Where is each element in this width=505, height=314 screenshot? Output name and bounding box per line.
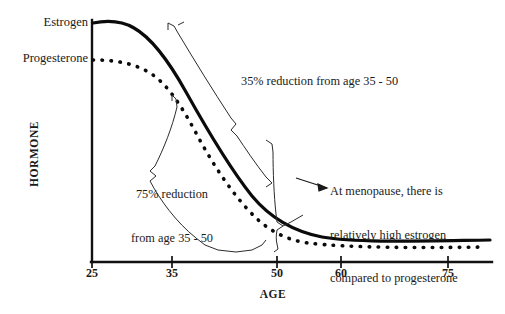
menopause-arrow [296,178,327,191]
annotation-progesterone-reduction-line-1: 75% reduction [102,187,242,202]
annotation-progesterone-reduction-line-2: from age 35 - 50 [102,231,242,246]
annotation-menopause-line-2: relatively high estrogen [330,228,505,243]
y-axis-title: HORMONE [28,99,40,209]
series-label-progesterone: Progesterone [0,51,88,66]
brace-menopause [266,140,303,252]
x-axis-title: AGE [243,288,303,300]
annotation-estrogen-reduction-line-1: 35% reduction from age 35 - 50 [241,74,471,89]
annotation-menopause: At menopause, there is relatively high e… [330,155,505,314]
annotation-menopause-line-3: compared to progesterone [330,271,505,286]
annotation-menopause-line-1: At menopause, there is [330,184,505,199]
annotation-progesterone-reduction: 75% reduction from age 35 - 50 [102,158,242,274]
x-tick-label-50: 50 [262,266,292,280]
annotation-estrogen-reduction: 35% reduction from age 35 - 50 [241,45,471,118]
hormone-age-chart: Estrogen Progesterone 25 35 50 60 75 AGE… [0,0,505,314]
series-label-estrogen: Estrogen [10,15,88,30]
